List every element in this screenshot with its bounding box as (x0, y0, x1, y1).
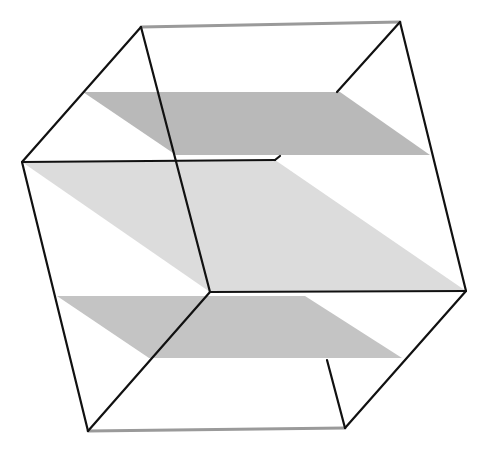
edge-left-notch (275, 156, 280, 160)
edge-top-back (141, 22, 400, 27)
edge-top-right-diag (337, 22, 400, 92)
edge-center-horizontal (210, 291, 466, 292)
edge-bottom-right-vertical (327, 360, 345, 428)
edge-right-bottom-diag (345, 291, 466, 428)
edge-right-vertical (400, 22, 466, 291)
middle-plane (22, 160, 466, 292)
upper-plane (83, 92, 430, 155)
lower-plane (57, 296, 402, 358)
cube-diagram (0, 0, 489, 454)
cube-cross-section-figure (0, 0, 489, 454)
edge-bottom-back (88, 428, 345, 431)
